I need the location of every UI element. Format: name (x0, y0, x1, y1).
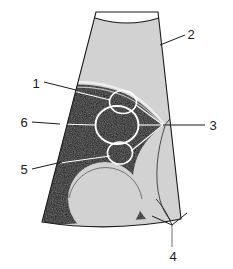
callout-label-6: 6 (20, 115, 27, 130)
lobe-lower-left (68, 162, 142, 236)
ultrasound-sector-illustration: 1 2 3 4 5 6 (0, 0, 233, 269)
leader-line-1 (44, 82, 76, 90)
ultrasound-figure: 1 2 3 4 5 6 (0, 0, 233, 269)
callout-label-5: 5 (20, 162, 27, 177)
callout-label-2: 2 (187, 27, 194, 42)
leader-line-2 (160, 35, 185, 45)
callout-label-4: 4 (169, 249, 176, 264)
callout-label-1: 1 (32, 76, 39, 91)
leader-line-6 (32, 122, 60, 124)
callout-label-3: 3 (209, 118, 216, 133)
